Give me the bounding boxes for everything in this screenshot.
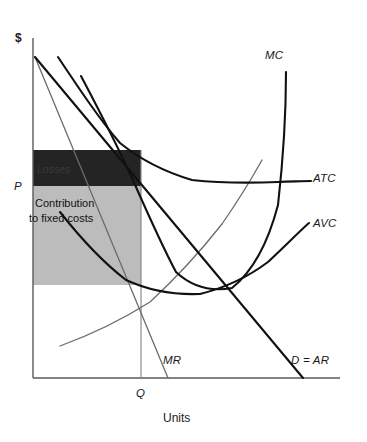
losses-label: Losses: [37, 163, 70, 175]
y-axis-label: $: [15, 31, 22, 45]
price-tick-label: P: [14, 180, 22, 192]
quantity-tick-label: Q: [136, 387, 145, 399]
x-axis-title: Units: [163, 411, 190, 425]
atc-curve-label: ATC: [312, 172, 336, 184]
avc-curve-label: AVC: [312, 217, 337, 229]
economics-chart-figure: $ P Q Units MC ATC AVC MR D = AR Losses …: [0, 0, 367, 442]
contribution-label-line2: to fixed costs: [29, 212, 94, 224]
demand-curve-label: D = AR: [291, 354, 329, 366]
mr-curve-label: MR: [163, 354, 181, 366]
contribution-label-line1: Contribution: [35, 197, 94, 209]
chart-canvas: $ P Q Units MC ATC AVC MR D = AR Losses …: [0, 0, 367, 442]
mc-curve-label: MC: [265, 49, 284, 61]
